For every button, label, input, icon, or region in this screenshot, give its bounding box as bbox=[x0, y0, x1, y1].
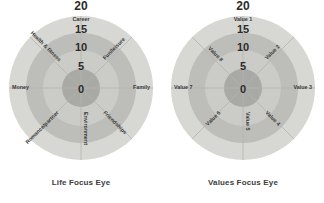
scale-label-20: 20 bbox=[74, 0, 88, 13]
figure-canvas: 20 15 10 5 0 Career Fun/leisure Family F… bbox=[0, 0, 324, 203]
radar-svg-values: 20 15 10 5 0 Value 1 Value 2 Value 3 Val… bbox=[162, 0, 324, 176]
scale-label-5: 5 bbox=[240, 60, 246, 72]
scale-label-15: 15 bbox=[75, 23, 87, 35]
spoke-label-value-7: Value 7 bbox=[174, 84, 193, 90]
scale-label-15: 15 bbox=[237, 23, 249, 35]
scale-label-20: 20 bbox=[236, 0, 250, 13]
scale-label-0: 0 bbox=[78, 83, 84, 95]
radar-wheel-life-focus-eye: 20 15 10 5 0 Career Fun/leisure Family F… bbox=[0, 0, 162, 176]
spoke-label-value-5: Value 5 bbox=[245, 112, 251, 131]
radar-wheel-values-focus-eye: 20 15 10 5 0 Value 1 Value 2 Value 3 Val… bbox=[162, 0, 324, 176]
chart-panel-life-focus-eye: 20 15 10 5 0 Career Fun/leisure Family F… bbox=[0, 0, 162, 203]
chart-panel-values-focus-eye: 20 15 10 5 0 Value 1 Value 2 Value 3 Val… bbox=[162, 0, 324, 203]
spoke-label-career: Career bbox=[72, 16, 90, 22]
chart-caption-life-focus-eye: Life Focus Eye bbox=[0, 178, 162, 187]
spoke-label-value-1: Value 1 bbox=[234, 16, 253, 22]
chart-caption-values-focus-eye: Values Focus Eye bbox=[162, 178, 324, 187]
scale-label-10: 10 bbox=[237, 41, 249, 53]
scale-label-5: 5 bbox=[78, 60, 84, 72]
radar-svg-life: 20 15 10 5 0 Career Fun/leisure Family F… bbox=[0, 0, 162, 176]
scale-label-10: 10 bbox=[75, 41, 87, 53]
spoke-label-family: Family bbox=[133, 84, 150, 90]
spoke-label-environment: Environment bbox=[83, 112, 89, 145]
spoke-label-money: Money bbox=[12, 84, 29, 90]
spoke-label-value-3: Value 3 bbox=[293, 84, 312, 90]
scale-label-0: 0 bbox=[240, 83, 246, 95]
